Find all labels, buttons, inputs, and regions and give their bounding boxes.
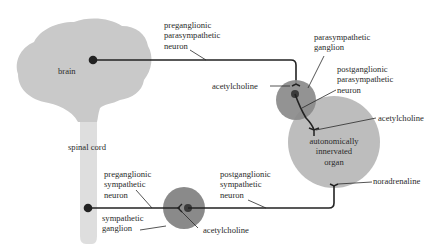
parasympathetic-ganglion-label: parasympathetic ganglion	[314, 32, 370, 53]
acetylcholine-symp-ganglion-label: acetylcholine	[203, 225, 249, 235]
label-line: sympathetic	[102, 213, 144, 223]
label-line: ganglion	[314, 42, 370, 52]
label-line: sympathetic	[104, 179, 151, 189]
label-line: organ	[296, 157, 372, 167]
label-line: preganglionic	[104, 169, 151, 179]
label-line: preganglionic	[164, 20, 220, 30]
brain-label: brain	[58, 66, 76, 76]
preganglionic-parasympathetic-label: preganglionic parasympathetic neuron	[164, 20, 220, 51]
label-line: neuron	[104, 190, 151, 200]
label-line: ganglion	[102, 223, 144, 233]
spinal-cord-label: spinal cord	[68, 142, 106, 152]
postganglionic-sympathetic-label: postganglionic sympathetic neuron	[220, 169, 271, 200]
organ-label: autonomically innervated organ	[296, 136, 372, 167]
brain-shape	[17, 19, 152, 122]
label-line: parasympathetic	[164, 30, 220, 40]
noradrenaline-label: noradrenaline	[373, 176, 420, 186]
spinal-cord-shape	[80, 112, 97, 244]
preganglionic-sympathetic-label: preganglionic sympathetic neuron	[104, 169, 151, 200]
label-line: innervated	[296, 146, 372, 156]
label-line: postganglionic	[220, 169, 271, 179]
label-line: parasympathetic	[314, 32, 370, 42]
label-line: sympathetic	[220, 179, 271, 189]
autonomic-diagram	[0, 0, 448, 248]
label-line: autonomically	[296, 136, 372, 146]
sympathetic-ganglion-label: sympathetic ganglion	[102, 213, 144, 234]
label-line: neuron	[220, 190, 271, 200]
label-line: neuron	[164, 41, 220, 51]
acetylcholine-para-organ-label: acetylcholine	[378, 113, 424, 123]
label-line: neuron	[337, 85, 393, 95]
label-line: parasympathetic	[337, 74, 393, 84]
postganglionic-parasympathetic-label: postganglionic parasympathetic neuron	[337, 64, 393, 95]
label-line: postganglionic	[337, 64, 393, 74]
acetylcholine-para-ganglion-label: acetylcholine	[212, 81, 258, 91]
